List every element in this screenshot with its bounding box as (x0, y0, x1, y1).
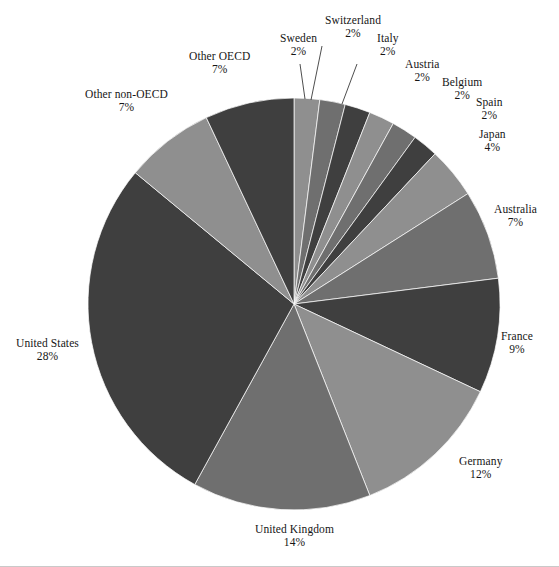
pie-label-other-oecd: Other OECD7% (189, 50, 250, 77)
pie-label-value-united-states: 28% (16, 350, 79, 363)
pie-label-value-united-kingdom: 14% (255, 536, 334, 549)
pie-label-name-italy: Italy (377, 32, 399, 45)
pie-label-value-france: 9% (501, 343, 533, 356)
pie-label-value-germany: 12% (459, 468, 503, 481)
leader-line-sweden (300, 64, 305, 99)
pie-label-switzerland: Switzerland2% (325, 14, 381, 41)
pie-label-australia: Australia7% (494, 203, 537, 230)
pie-label-spain: Spain2% (476, 96, 503, 123)
pie-label-name-other-oecd: Other OECD (189, 50, 250, 63)
pie-label-value-switzerland: 2% (325, 27, 381, 40)
pie-label-value-japan: 4% (479, 141, 506, 154)
pie-label-sweden: Sweden2% (280, 32, 317, 59)
pie-label-name-spain: Spain (476, 96, 503, 109)
pie-label-name-united-states: United States (16, 337, 79, 350)
pie-label-united-states: United States28% (16, 337, 79, 364)
pie-slices-layer (88, 98, 500, 510)
pie-label-name-switzerland: Switzerland (325, 14, 381, 27)
pie-label-value-spain: 2% (476, 109, 503, 122)
pie-label-name-other-non-oecd: Other non-OECD (85, 88, 168, 101)
pie-label-united-kingdom: United Kingdom14% (255, 523, 334, 550)
pie-label-value-australia: 7% (494, 216, 537, 229)
pie-label-name-sweden: Sweden (280, 32, 317, 45)
pie-label-name-france: France (501, 330, 533, 343)
pie-label-value-austria: 2% (405, 71, 440, 84)
pie-label-name-austria: Austria (405, 58, 440, 71)
pie-label-name-australia: Australia (494, 203, 537, 216)
pie-label-austria: Austria2% (405, 58, 440, 85)
pie-label-japan: Japan4% (479, 128, 506, 155)
pie-label-name-united-kingdom: United Kingdom (255, 523, 334, 536)
pie-label-value-italy: 2% (377, 45, 399, 58)
pie-label-germany: Germany12% (459, 455, 503, 482)
pie-label-value-sweden: 2% (280, 45, 317, 58)
pie-label-name-germany: Germany (459, 455, 503, 468)
pie-label-name-japan: Japan (479, 128, 506, 141)
leader-line-italy (342, 64, 357, 104)
pie-label-value-other-oecd: 7% (189, 63, 250, 76)
pie-chart-figure: Switzerland2%Sweden2%Italy2%Austria2%Oth… (0, 0, 559, 567)
pie-label-italy: Italy2% (377, 32, 399, 59)
pie-label-value-other-non-oecd: 7% (85, 101, 168, 114)
pie-label-other-non-oecd: Other non-OECD7% (85, 88, 168, 115)
pie-label-name-belgium: Belgium (442, 76, 482, 89)
pie-label-france: France9% (501, 330, 533, 357)
